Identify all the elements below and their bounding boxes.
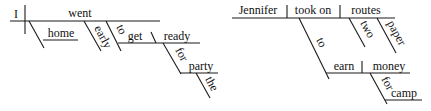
infinitive-to-2: to xyxy=(313,35,330,50)
prep-object-camp: camp xyxy=(391,86,417,100)
diagram-1: I went home early to get ready for party… xyxy=(10,5,222,98)
infinitive-earn: earn xyxy=(334,59,355,73)
sentence-diagrams: I went home early to get ready for party… xyxy=(0,0,431,111)
prep-object-party: party xyxy=(189,59,214,73)
verb-took-on: took on xyxy=(295,3,331,17)
subject-jennifer: Jennifer xyxy=(239,3,278,17)
to-slant-2 xyxy=(299,18,329,79)
adverb-early: early xyxy=(91,23,115,51)
subject-word: I xyxy=(14,7,18,21)
complement-ready: ready xyxy=(164,29,191,43)
adjective-paper: paper xyxy=(384,18,409,48)
home-slant xyxy=(29,21,44,48)
infinitive-get: get xyxy=(128,29,143,43)
object-routes: routes xyxy=(351,3,381,17)
complement-divider xyxy=(151,32,156,43)
adjective-two: two xyxy=(357,18,378,40)
diagram-2: Jennifer took on routes two paper to ear… xyxy=(232,3,422,104)
infinitive-object-money: money xyxy=(373,59,406,73)
verb-word: went xyxy=(68,6,92,20)
adverb-home: home xyxy=(48,26,75,40)
